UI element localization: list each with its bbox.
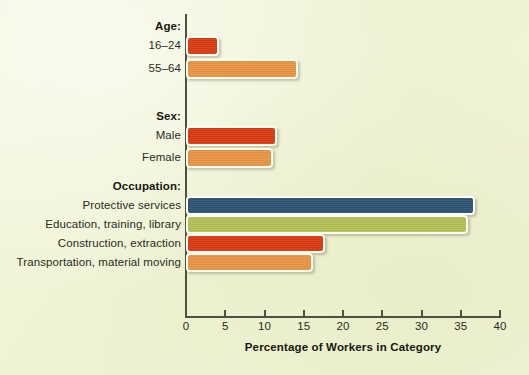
- bar: [186, 234, 325, 253]
- category-label: 55–64: [149, 62, 181, 74]
- x-axis-tick: [421, 310, 423, 317]
- bar: [186, 36, 219, 56]
- bar-chart: Age:Sex:Occupation: 16–2455–64MaleFemale…: [0, 0, 529, 375]
- bar: [186, 215, 468, 234]
- x-axis-tick: [264, 310, 266, 317]
- category-label: Construction, extraction: [58, 237, 181, 249]
- group-heading: Occupation:: [113, 180, 181, 192]
- x-axis-tick-label: 10: [258, 320, 271, 332]
- x-axis-tick: [381, 310, 383, 317]
- category-label: Protective services: [83, 199, 181, 211]
- x-axis-tick: [342, 310, 344, 317]
- group-heading: Age:: [155, 20, 181, 32]
- bar: [186, 148, 273, 168]
- category-label: Transportation, material moving: [17, 256, 181, 268]
- bar: [186, 126, 277, 146]
- x-axis-tick-label: 35: [454, 320, 467, 332]
- x-axis-title: Percentage of Workers in Category: [185, 341, 501, 353]
- x-axis-tick-label: 5: [222, 320, 229, 332]
- x-axis-tick-label: 30: [415, 320, 428, 332]
- category-label: Male: [156, 129, 181, 141]
- x-axis-tick: [224, 310, 226, 317]
- x-axis-tick: [303, 310, 305, 317]
- bar: [186, 196, 475, 215]
- bar: [186, 253, 313, 272]
- x-axis-tick-label: 20: [337, 320, 350, 332]
- x-axis-tick-label: 15: [297, 320, 310, 332]
- x-axis-tick: [460, 310, 462, 317]
- x-axis-tick-label: 40: [494, 320, 507, 332]
- category-label: Education, training, library: [45, 218, 181, 230]
- x-axis-tick-label: 25: [376, 320, 389, 332]
- group-heading: Sex:: [156, 110, 181, 122]
- category-label: 16–24: [149, 39, 181, 51]
- bar: [186, 59, 298, 79]
- x-axis-tick: [499, 310, 501, 317]
- x-axis-tick: [185, 310, 187, 317]
- x-axis-tick-label: 0: [183, 320, 190, 332]
- category-label: Female: [142, 151, 181, 163]
